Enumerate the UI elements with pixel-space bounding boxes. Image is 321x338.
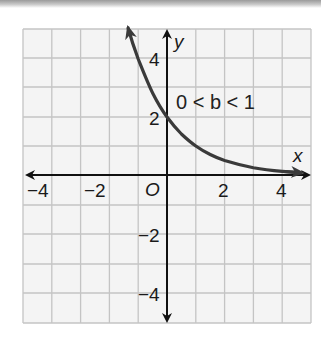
curve-right-arrowhead xyxy=(284,172,302,173)
y-tick-label: 2 xyxy=(149,108,160,129)
x-axis-label: x xyxy=(292,145,304,166)
y-tick-label: 4 xyxy=(149,49,160,70)
x-tick-label: 2 xyxy=(218,180,229,201)
x-tick-label: −4 xyxy=(27,180,49,201)
x-tick-label: 4 xyxy=(276,180,287,201)
x-tick-label: −2 xyxy=(84,180,106,201)
y-tick-label: −2 xyxy=(138,225,160,246)
exponential-graph: y x O −4 −2 2 4 4 2 −2 −4 0 < b < 1 xyxy=(0,0,321,338)
y-tick-label: −4 xyxy=(138,284,160,305)
curve-annotation: 0 < b < 1 xyxy=(176,91,255,113)
origin-label: O xyxy=(145,179,160,200)
y-axis-label: y xyxy=(172,31,185,52)
